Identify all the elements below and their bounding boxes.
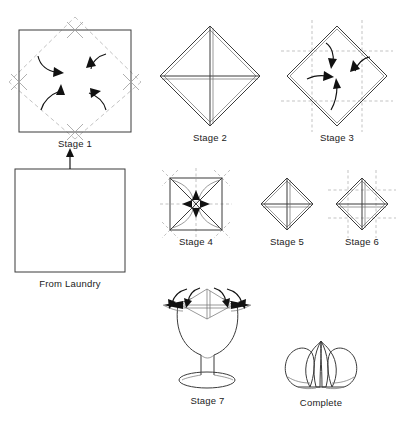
caption-stage-2: Stage 2: [158, 132, 262, 144]
caption-stage-5: Stage 5: [247, 236, 327, 248]
caption-stage-4: Stage 4: [156, 236, 236, 248]
stage-2-drawing: [158, 24, 262, 128]
figure-stage-3: Stage 3: [285, 24, 389, 128]
stage-3-drawing: [285, 24, 389, 128]
stage-7-drawing: [155, 283, 260, 393]
fold-arrows-stage-3: [307, 43, 370, 110]
caption-stage-7: Stage 7: [155, 395, 260, 407]
crosshair-marks: [11, 22, 139, 140]
figure-from-laundry: From Laundry: [14, 168, 126, 273]
figure-stage-7: Stage 7: [155, 283, 260, 393]
stage-5-drawing: [259, 176, 315, 232]
stage-6-drawing: [334, 176, 390, 232]
stage-4-drawing: [168, 176, 224, 232]
caption-stage-3: Stage 3: [285, 132, 389, 144]
figure-stage-6: Stage 6: [334, 176, 390, 232]
complete-drawing: [276, 335, 366, 395]
caption-stage-6: Stage 6: [322, 236, 400, 248]
figure-stage-4: Stage 4: [168, 176, 224, 232]
figure-stage-5: Stage 5: [259, 176, 315, 232]
flow-arrow-up: [62, 148, 78, 170]
figure-stage-2: Stage 2: [158, 24, 262, 128]
stage-1-drawing: [14, 22, 136, 134]
caption-complete: Complete: [276, 397, 366, 409]
from-laundry-drawing: [14, 168, 126, 273]
fold-arrows-stage-1: [38, 54, 106, 110]
caption-from-laundry: From Laundry: [11, 278, 129, 290]
figure-complete: Complete: [276, 335, 366, 395]
figure-stage-1: Stage 1: [14, 22, 136, 134]
flow-arrow-icon: [62, 148, 78, 170]
